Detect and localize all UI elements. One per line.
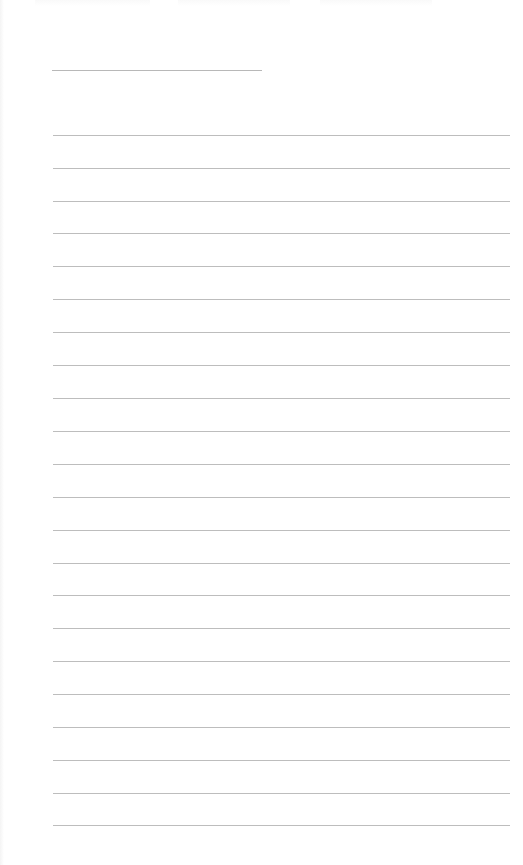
ruled-line (53, 563, 510, 564)
name-line[interactable] (52, 70, 262, 71)
header-bleed-text (35, 0, 150, 6)
ruled-line (53, 266, 510, 267)
ruled-line (53, 365, 510, 366)
ruled-line (53, 530, 510, 531)
ruled-line (53, 299, 510, 300)
ruled-line (53, 694, 510, 695)
ruled-line (53, 595, 510, 596)
ruled-line (53, 398, 510, 399)
header-bleed-text (320, 0, 432, 6)
ruled-line (53, 233, 510, 234)
ruled-line (53, 431, 510, 432)
ruled-line (53, 760, 510, 761)
ruled-line (53, 825, 510, 826)
ruled-line (53, 135, 510, 136)
ruled-line (53, 661, 510, 662)
ruled-line (53, 793, 510, 794)
page-edge-shadow (0, 0, 4, 865)
ruled-line (53, 201, 510, 202)
lined-page (0, 0, 523, 865)
ruled-line (53, 628, 510, 629)
ruled-line (53, 727, 510, 728)
ruled-line (53, 168, 510, 169)
header-bleed-text (178, 0, 290, 6)
ruled-line (53, 464, 510, 465)
ruled-line (53, 497, 510, 498)
ruled-line (53, 332, 510, 333)
